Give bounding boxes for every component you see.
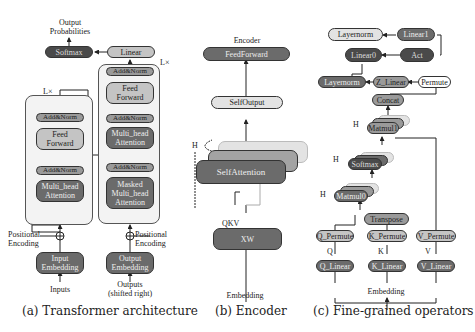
v-permute-block: V_Permute: [416, 230, 456, 242]
matmul0-block: Matmul0: [334, 190, 368, 202]
act-block: Act: [400, 48, 434, 62]
transpose-block: Transpose: [364, 213, 409, 225]
v-label: V: [425, 247, 431, 256]
caption-c: (c) Fine-grained operators: [313, 304, 474, 318]
heads-label-3: H: [320, 190, 326, 199]
heads-label-2: H: [333, 155, 339, 164]
q-permute-block: Q_Permute: [316, 230, 354, 242]
v-linear-block: V_Linear: [417, 260, 455, 272]
matmul1-block: Matmul1: [367, 122, 399, 134]
q-linear-block: Q_Linear: [316, 260, 354, 272]
layernorm-mid-block: Layernorm: [318, 76, 366, 88]
q-label: Q: [327, 247, 333, 256]
k-linear-block: K_Linear: [368, 260, 406, 272]
linear0-block: Linear0: [345, 48, 382, 62]
embedding-label-c: Embedding: [356, 287, 416, 296]
heads-label-1: H: [353, 120, 359, 129]
softmax-block: Softmax: [348, 158, 382, 170]
permute-block: Permute: [418, 76, 451, 88]
k-permute-block: K_Permute: [367, 230, 407, 242]
concat-block: Concat: [372, 94, 404, 106]
linear1-block: Linear1: [397, 28, 435, 41]
z-linear-block: Z_Linear: [373, 76, 409, 88]
layernorm-top-block: Layernorm: [328, 28, 383, 41]
k-label: K: [378, 247, 384, 256]
